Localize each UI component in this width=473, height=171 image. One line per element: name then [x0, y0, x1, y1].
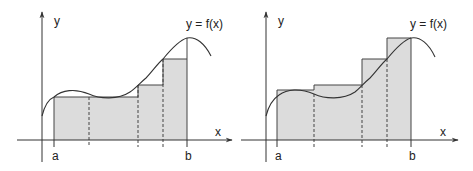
lower-sum-rectangles: [54, 59, 187, 140]
curve-label: y = f(x): [186, 17, 223, 31]
y-axis-label: y: [278, 14, 284, 28]
panel-upper-sum: y y = f(x) x a b: [241, 12, 458, 163]
panel-lower-sum: y y = f(x) x a b: [17, 12, 232, 163]
riemann-sum-diagram: y y = f(x) x a b y y = f(x) x a: [0, 0, 473, 171]
upper-sum-rectangles: [277, 38, 411, 140]
curve-label: y = f(x): [410, 17, 447, 31]
b-label: b: [409, 149, 416, 163]
a-label: a: [52, 149, 59, 163]
y-axis-label: y: [54, 14, 60, 28]
b-label: b: [185, 149, 192, 163]
x-axis-label: x: [215, 125, 221, 139]
a-label: a: [275, 149, 282, 163]
x-axis-label: x: [440, 125, 446, 139]
